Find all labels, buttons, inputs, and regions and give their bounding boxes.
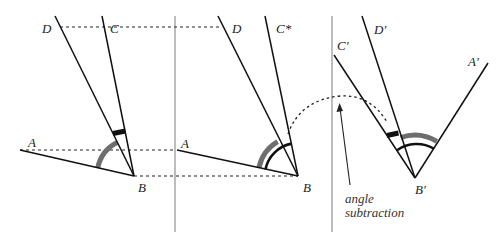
panel-2: D C* A B (177, 16, 311, 195)
diagram-svg: D C A B D C* A B C′ D′ A′ B′ angle subtr… (0, 0, 500, 242)
label-c: C (110, 21, 119, 36)
label-c-prime: C′ (337, 38, 349, 53)
ray-ba (20, 150, 134, 176)
ray-bd-prime (362, 16, 415, 178)
ray-ba-prime (415, 63, 488, 178)
panel-1: D C A B (20, 16, 146, 195)
ray-bd (55, 16, 134, 176)
label-a: A (180, 136, 189, 151)
label-d: D (41, 21, 52, 36)
label-a-prime: A′ (467, 54, 479, 69)
panel-3: C′ D′ A′ B′ angle subtraction (334, 16, 488, 220)
label-b: B (138, 180, 146, 195)
label-d-prime: D′ (373, 22, 386, 37)
ray-bc-star (265, 16, 298, 176)
label-c-star: C* (276, 21, 292, 36)
label-b-prime: B′ (415, 182, 426, 197)
label-b: B (303, 180, 311, 195)
annotation-line-2: subtraction (345, 205, 404, 220)
angle-subtraction-diagram: D C A B D C* A B C′ D′ A′ B′ angle subtr… (0, 0, 500, 242)
transfer-dashed-curve (288, 96, 387, 134)
angle-black-mark (387, 133, 399, 136)
angle-dbc-black-mark (113, 131, 126, 134)
label-d: D (231, 21, 242, 36)
annotation-line-1: angle (345, 191, 374, 206)
angle-abc-gray-arc (98, 142, 118, 168)
annotation-arrow-line (340, 108, 350, 185)
label-a: A (27, 135, 36, 150)
ray-ba (177, 150, 298, 176)
angle-gray-arc (401, 135, 437, 141)
arrowhead-icon (337, 103, 344, 112)
ray-bd (218, 16, 298, 176)
angle-black-arc (397, 144, 434, 150)
